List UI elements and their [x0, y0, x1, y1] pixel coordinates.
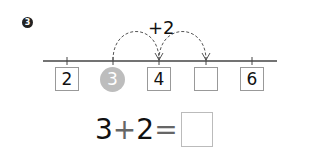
highlighted-number-3: 3: [100, 67, 125, 92]
number-box-2: 2: [55, 67, 79, 91]
equation: 3 + 2 =: [95, 112, 213, 147]
jump-label: +2: [148, 17, 175, 38]
equation-plus: +: [113, 113, 136, 146]
number-box-6: 6: [240, 67, 264, 91]
answer-box[interactable]: [181, 112, 213, 147]
number-box-4: 4: [147, 67, 171, 91]
equation-right: 2: [136, 113, 154, 146]
equation-equals: =: [154, 113, 177, 146]
blank-number-box[interactable]: [194, 67, 218, 91]
equation-left: 3: [95, 113, 113, 146]
